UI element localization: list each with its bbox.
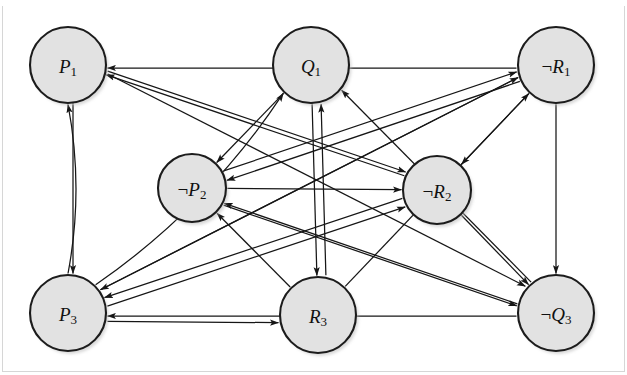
graph-node-nP2[interactable]: ¬P2 (158, 154, 229, 225)
graph-node-nQ3[interactable]: ¬Q3 (518, 275, 597, 354)
graph-edge (224, 72, 517, 171)
graph-edge (107, 207, 405, 306)
graph-node-nR1[interactable]: ¬R1 (518, 27, 597, 106)
graph-node-nR2[interactable]: ¬R2 (403, 156, 474, 227)
graph-edge (107, 321, 278, 322)
graph-edge (224, 205, 517, 306)
graph-node-R3[interactable]: R3 (280, 277, 359, 356)
graph-node-P1[interactable]: P1 (30, 27, 109, 106)
graph-edge (312, 104, 317, 275)
graph-edge (462, 216, 529, 285)
graph-edge (68, 105, 76, 274)
graph-edge (228, 188, 402, 189)
implication-graph: P1Q1¬R1¬P2¬R2P3R3¬Q3 (0, 0, 627, 375)
figure-canvas: P1Q1¬R1¬P2¬R2P3R3¬Q3 (0, 0, 627, 375)
graph-edge (321, 104, 326, 275)
node-layer: P1Q1¬R1¬P2¬R2P3R3¬Q3 (30, 27, 597, 356)
graph-edge (217, 93, 284, 162)
graph-node-Q1[interactable]: Q1 (273, 27, 352, 106)
graph-node-P3[interactable]: P3 (30, 275, 109, 354)
